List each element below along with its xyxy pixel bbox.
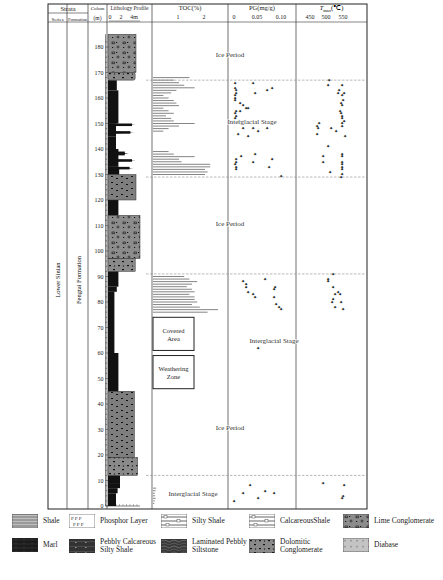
annotation-box	[153, 356, 194, 389]
depth-tick-label: 60	[98, 350, 104, 356]
depth-tick-label: 110	[95, 223, 104, 229]
legend-label: CalcareousShale	[280, 517, 330, 525]
lith-scale-tick: 0	[109, 14, 112, 20]
depth-tick-label: 160	[95, 95, 104, 101]
shale-swatch-icon	[12, 514, 38, 528]
depth-tick-label: 0	[101, 503, 104, 509]
lith-scale-tick: 4m	[130, 14, 138, 20]
tmax-point: ✦	[331, 297, 335, 302]
pg-header: PG(mg/g)	[249, 4, 275, 12]
pg-point: ✦	[236, 132, 240, 137]
pg-point: ✦	[233, 86, 237, 91]
pg-point: ✦	[270, 86, 274, 91]
legend-item-marl: Marl	[12, 538, 58, 552]
tmax-point: ✦	[339, 300, 343, 305]
pg-point: ✦	[270, 157, 274, 162]
depth-tick-label: 40	[98, 401, 104, 407]
silty-swatch-icon	[161, 514, 187, 528]
tmax-point: ✦	[321, 160, 325, 165]
tmax-point: ✦	[328, 170, 332, 175]
depth-tick-label: 70	[98, 325, 104, 331]
toc-header: TOC(%)	[179, 4, 202, 12]
depth-tick-label: 30	[98, 427, 104, 433]
pg-point: ✦	[253, 91, 257, 96]
depth-unit: (m)	[94, 15, 102, 22]
legend-item-phosphor: P P PP P PPhosphor Layer	[69, 514, 148, 528]
pg-point: ✦	[256, 129, 260, 134]
pg-point: ✦	[272, 491, 276, 496]
table-frame	[48, 4, 367, 509]
tmax-point: ✦	[334, 129, 338, 134]
pg-point: ✦	[256, 346, 260, 351]
legend-item-silty: Silty Shale	[161, 514, 225, 528]
toc-bars	[153, 78, 218, 504]
diabase-swatch-icon	[343, 538, 369, 552]
pg-point: ✦	[279, 307, 283, 312]
tmax-point: ✦	[326, 144, 330, 149]
stage-label: Interglacial Stage	[249, 337, 298, 345]
depth-tick-label: 10	[98, 478, 104, 484]
pg-point: ✦	[251, 160, 255, 165]
pg-point: ✦	[246, 290, 250, 295]
pg-point: ✦	[246, 106, 250, 111]
strata-labels: Lower SinianFengtai Formation	[54, 255, 82, 304]
marl-swatch-icon	[12, 538, 38, 552]
series-header: Series	[51, 17, 63, 22]
svg-text:P P P: P P P	[71, 516, 82, 521]
tmax-point: ✦	[340, 160, 344, 165]
tmax-point: ✦	[340, 83, 344, 88]
column-header: Colum	[91, 6, 105, 11]
legend-label: Silty Shale	[192, 517, 225, 525]
pg-tick: 0.05	[252, 14, 263, 20]
annotation-box	[153, 317, 194, 350]
dolo-swatch-icon	[249, 539, 275, 553]
formation-name: Fengtai Formation	[75, 255, 82, 304]
pg-point: ✦	[273, 285, 277, 290]
toc-tick: 1	[177, 14, 180, 20]
tmax-point: ✦	[343, 134, 347, 139]
box-label: Zone	[167, 373, 180, 380]
formation-header: Formation	[68, 17, 88, 22]
pg-tick: 0.10	[276, 14, 287, 20]
annotation-boxes: CoveredAreaWeatheringZone	[153, 317, 194, 388]
stage-label: Ice Period	[216, 220, 245, 228]
depth-tick-label: 170	[95, 70, 104, 76]
tmax-scatter: ✦✦✦✦✦✦✦✦✦✦✦✦✦✦✦✦✦✦✦✦✦✦✦✦✦✦✦✦✦✦✦✦✦✦✦✦✦✦✦✦…	[315, 78, 347, 501]
pg-point: ✦	[263, 277, 267, 282]
depth-tick-label: 20	[98, 452, 104, 458]
tmax-tick: 450	[306, 14, 315, 20]
legend-item-diabase: Diabase	[343, 538, 398, 552]
stage-label: Interglacial Stage	[227, 118, 276, 126]
legend-label: Marl	[43, 541, 58, 549]
pebbly-swatch-icon	[69, 539, 95, 553]
pg-point: ✦	[265, 88, 269, 93]
stage-label: Interglacial Stage	[168, 490, 217, 498]
depth-tick-label: 80	[98, 299, 104, 305]
legend-label: Shale	[43, 517, 60, 525]
tmax-point: ✦	[329, 126, 333, 131]
pg-point: ✦	[232, 499, 236, 504]
tmax-point: ✦	[315, 132, 319, 137]
tmax-point: ✦	[317, 121, 321, 126]
depth-tick-label: 130	[95, 172, 104, 178]
pg-point: ✦	[256, 496, 260, 501]
tmax-point: ✦	[331, 285, 335, 290]
series-name: Lower Sinian	[54, 262, 61, 298]
pg-point: ✦	[267, 165, 271, 170]
legend-label: Lime Conglomerate	[374, 517, 434, 525]
legend-label: Pebbly Calcareous Silty Shale	[100, 538, 162, 554]
toc-tick: 2	[203, 14, 206, 20]
pg-tick: 0	[233, 14, 236, 20]
depth-tick-label: 50	[98, 376, 104, 382]
pg-point: ✦	[246, 134, 250, 139]
pg-point: ✦	[279, 174, 283, 179]
tmax-tick: 550	[339, 14, 348, 20]
tmax-point: ✦	[326, 83, 330, 88]
depth-tick-label: 120	[95, 197, 104, 203]
tmax-point: ✦	[341, 98, 345, 103]
tmax-point: ✦	[321, 481, 325, 486]
legend-item-laminated: Laminated Pebbly Siltstone	[161, 538, 254, 554]
phosphor-swatch-icon: P P PP P P	[69, 514, 95, 528]
pg-scatter: ✦✦✦✦✦✦✦✦✦✦✦✦✦✦✦✦✦✦✦✦✦✦✦✦✦✦✦✦✦✦✦✦✦✦✦✦✦✦✦✦…	[232, 81, 283, 504]
pg-point: ✦	[238, 109, 242, 114]
